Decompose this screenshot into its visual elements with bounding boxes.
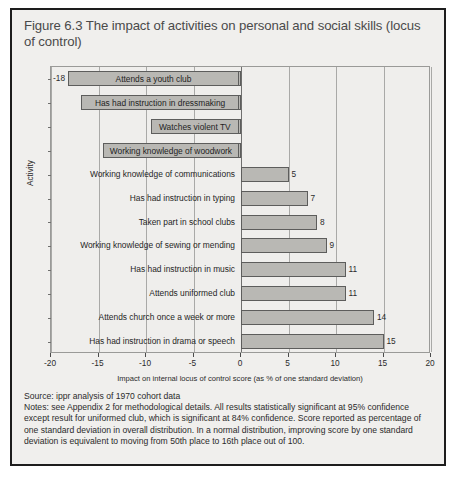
bar-value-label: -18 (53, 71, 65, 86)
x-axis-tick (430, 353, 431, 357)
chart-bar (241, 191, 308, 206)
bar-category-label: Working knowledge of sewing or mending (45, 238, 239, 253)
chart-row: -8Watches violent TV (51, 115, 429, 139)
bar-value-label: 11 (349, 262, 358, 277)
x-axis-tick (50, 353, 51, 357)
chart-row: -18Attends a youth club (51, 67, 429, 91)
x-axis-tick-label: -5 (189, 358, 196, 368)
bar-category-label: Taken part in school clubs (45, 215, 239, 230)
bar-category-label: Attends uniformed club (45, 286, 239, 301)
chart-row: 7Has had instruction in typing (51, 187, 429, 211)
figure-title: Figure 6.3 The impact of activities on p… (24, 18, 434, 50)
bar-value-label: 15 (387, 334, 396, 349)
chart-row: 5Working knowledge of communications (51, 163, 429, 187)
x-axis-tick (335, 353, 336, 357)
figure-footer: Source: ippr analysis of 1970 cohort dat… (24, 391, 436, 447)
figure-notes: Notes: see Appendix 2 for methodological… (24, 402, 436, 447)
y-axis-tick (48, 79, 51, 80)
x-axis-tick-label: 15 (378, 358, 387, 368)
figure-source: Source: ippr analysis of 1970 cohort dat… (24, 391, 436, 402)
chart-row: 11Attends uniformed club (51, 282, 429, 306)
x-axis-tick (383, 353, 384, 357)
y-axis-tick (48, 127, 51, 128)
bar-value-label: 11 (349, 286, 358, 301)
chart-row: 14Attends church once a week or more (51, 306, 429, 330)
x-axis-tick-label: -10 (139, 358, 151, 368)
bar-category-label: Attends church once a week or more (45, 310, 239, 325)
y-axis-tick (48, 151, 51, 152)
x-axis-tick (288, 353, 289, 357)
gridline (431, 67, 432, 352)
bar-category-label: Has had instruction in dressmaking (81, 95, 239, 110)
bar-value-label: 9 (330, 238, 335, 253)
x-axis-title: Impact on internal locus of control scor… (50, 374, 430, 383)
chart-row: 8Taken part in school clubs (51, 211, 429, 235)
y-axis-title: Activity (26, 160, 35, 186)
chart-bar (241, 286, 346, 301)
x-axis-tick-label: -15 (92, 358, 104, 368)
x-axis-tick (145, 353, 146, 357)
chart-bar (241, 310, 374, 325)
x-axis-tick-label: 0 (238, 358, 243, 368)
chart-row: 15Has had instruction in drama or speech (51, 330, 429, 354)
x-axis-tick-label: 20 (425, 358, 434, 368)
bar-category-label: Working knowledge of woodwork (103, 143, 239, 158)
bar-category-label: Has had instruction in drama or speech (45, 334, 239, 349)
x-axis-tick-label: -20 (44, 358, 56, 368)
bar-value-label: 8 (320, 215, 325, 230)
x-axis-tick-label: 5 (285, 358, 290, 368)
chart-bar (241, 262, 346, 277)
bar-category-label: Working knowledge of communications (45, 167, 239, 182)
chart-row: -5Working knowledge of woodwork (51, 139, 429, 163)
chart-bar (241, 167, 289, 182)
figure-panel: Figure 6.3 The impact of activities on p… (10, 8, 446, 466)
chart-plot-area: -18Attends a youth club-12Has had instru… (50, 66, 430, 353)
y-axis-tick (48, 103, 51, 104)
chart-row: -12Has had instruction in dressmaking (51, 91, 429, 115)
bar-category-label: Has had instruction in music (45, 262, 239, 277)
bar-category-label: Attends a youth club (68, 71, 239, 86)
chart-row: 9Working knowledge of sewing or mending (51, 234, 429, 258)
chart-bar (241, 215, 317, 230)
x-axis-tick (193, 353, 194, 357)
chart-bar (241, 334, 384, 349)
bar-value-label: 7 (311, 191, 316, 206)
bar-value-label: 5 (292, 167, 297, 182)
bar-category-label: Has had instruction in typing (45, 191, 239, 206)
x-axis-tick (98, 353, 99, 357)
x-axis-tick-label: 10 (330, 358, 339, 368)
bar-value-label: 14 (377, 310, 386, 325)
chart-bar (241, 238, 327, 253)
x-axis: -20-15-10-505101520 (50, 353, 430, 375)
bar-category-label: Watches violent TV (151, 119, 239, 134)
chart-row: 11Has had instruction in music (51, 258, 429, 282)
x-axis-tick (240, 353, 241, 357)
